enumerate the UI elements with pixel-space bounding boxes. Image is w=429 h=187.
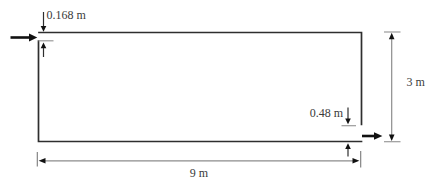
- outlet-flow-arrow-head: [374, 132, 382, 140]
- height-dim-up-arrow-icon: [389, 33, 395, 40]
- outlet-thickness-label: 0.48 m: [310, 106, 344, 120]
- inlet-dim-up-arrow-icon: [41, 43, 47, 49]
- outlet-dim-down-arrow-icon: [345, 119, 351, 125]
- length-dim-right-arrow-icon: [353, 158, 360, 164]
- outlet-dim-up-arrow-icon: [345, 143, 351, 149]
- outlet-flow-arrow-icon: [362, 132, 382, 140]
- height-dimension: 3 m: [384, 32, 426, 142]
- length-dim-left-arrow-icon: [39, 158, 46, 164]
- inlet-flow-arrow-icon: [11, 34, 38, 42]
- outlet-thickness-dimension: 0.48 m: [310, 106, 356, 157]
- tank-left-and-bottom-wall: [39, 41, 362, 142]
- inlet-dim-down-arrow-icon: [41, 26, 47, 32]
- inlet-thickness-label: 0.168 m: [47, 8, 87, 22]
- height-label: 3 m: [407, 75, 426, 89]
- height-dim-down-arrow-icon: [389, 135, 395, 142]
- length-dimension: 9 m: [37, 151, 360, 180]
- tank-outline: [39, 33, 362, 142]
- diagram-svg: 0.168 m 0.48 m 3 m: [0, 0, 429, 187]
- inlet-flow-arrow-head: [29, 34, 37, 42]
- tank-flow-diagram: 0.168 m 0.48 m 3 m: [0, 0, 429, 187]
- length-label: 9 m: [190, 166, 209, 180]
